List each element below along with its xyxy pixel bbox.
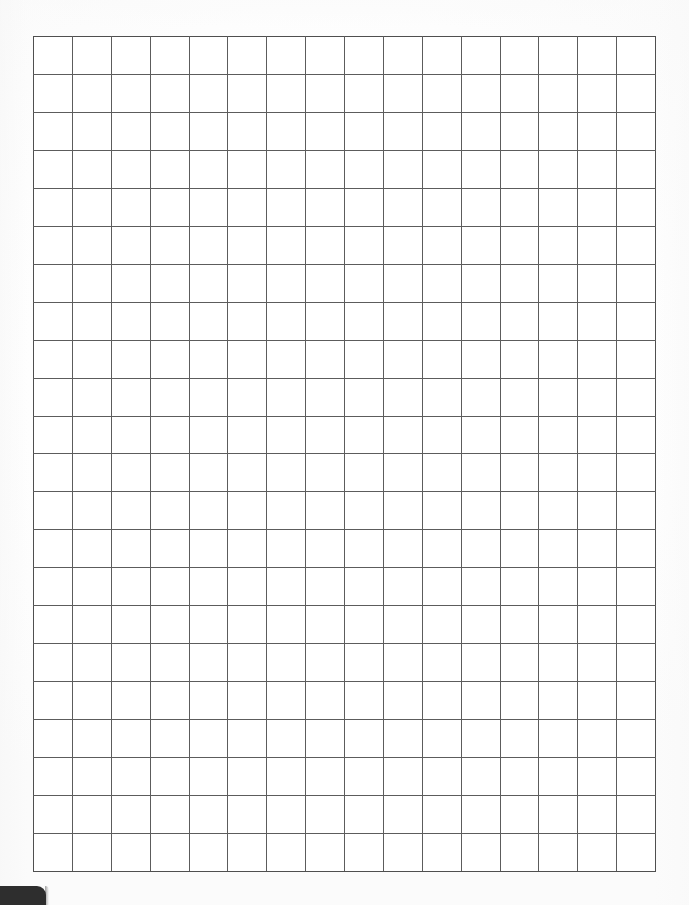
grid-cell[interactable] [539,796,578,834]
grid-cell[interactable] [383,37,422,75]
grid-cell[interactable] [267,834,306,872]
grid-cell[interactable] [461,606,500,644]
grid-cell[interactable] [539,644,578,682]
grid-cell[interactable] [189,644,228,682]
grid-cell[interactable] [228,74,267,112]
grid-cell[interactable] [345,302,384,340]
grid-cell[interactable] [578,150,617,188]
grid-cell[interactable] [383,264,422,302]
grid-cell[interactable] [150,530,189,568]
grid-cell[interactable] [228,834,267,872]
grid-cell[interactable] [422,758,461,796]
grid-cell[interactable] [500,226,539,264]
grid-cell[interactable] [578,644,617,682]
grid-cell[interactable] [111,302,150,340]
grid-cell[interactable] [539,302,578,340]
grid-cell[interactable] [461,378,500,416]
grid-cell[interactable] [267,340,306,378]
grid-cell[interactable] [267,758,306,796]
grid-cell[interactable] [500,74,539,112]
grid-cell[interactable] [461,188,500,226]
grid-cell[interactable] [267,264,306,302]
grid-cell[interactable] [72,226,111,264]
grid-cell[interactable] [617,796,656,834]
grid-cell[interactable] [111,720,150,758]
grid-cell[interactable] [617,682,656,720]
grid-cell[interactable] [539,150,578,188]
grid-cell[interactable] [383,758,422,796]
grid-cell[interactable] [383,378,422,416]
grid-cell[interactable] [189,150,228,188]
grid-cell[interactable] [189,530,228,568]
grid-cell[interactable] [267,188,306,226]
grid-cell[interactable] [111,530,150,568]
grid-cell[interactable] [150,416,189,454]
grid-cell[interactable] [189,834,228,872]
grid-cell[interactable] [228,796,267,834]
grid-cell[interactable] [461,226,500,264]
grid-cell[interactable] [306,416,345,454]
grid-cell[interactable] [267,302,306,340]
grid-cell[interactable] [500,302,539,340]
grid-cell[interactable] [72,264,111,302]
grid-cell[interactable] [383,796,422,834]
grid-cell[interactable] [306,37,345,75]
grid-cell[interactable] [539,606,578,644]
grid-cell[interactable] [111,112,150,150]
grid-cell[interactable] [383,226,422,264]
grid-cell[interactable] [422,454,461,492]
grid-cell[interactable] [267,492,306,530]
grid-cell[interactable] [461,302,500,340]
grid-cell[interactable] [228,758,267,796]
grid-cell[interactable] [539,74,578,112]
grid-cell[interactable] [111,378,150,416]
grid-cell[interactable] [267,226,306,264]
grid-cell[interactable] [422,492,461,530]
grid-cell[interactable] [228,188,267,226]
grid-cell[interactable] [111,492,150,530]
grid-cell[interactable] [306,112,345,150]
grid-cell[interactable] [189,454,228,492]
grid-cell[interactable] [461,150,500,188]
grid-cell[interactable] [34,378,73,416]
grid-cell[interactable] [267,530,306,568]
grid-cell[interactable] [617,112,656,150]
grid-cell[interactable] [500,188,539,226]
grid-cell[interactable] [267,74,306,112]
grid-cell[interactable] [345,530,384,568]
grid-cell[interactable] [34,568,73,606]
grid-cell[interactable] [150,74,189,112]
grid-cell[interactable] [306,264,345,302]
grid-cell[interactable] [189,568,228,606]
grid-cell[interactable] [578,37,617,75]
grid-cell[interactable] [383,302,422,340]
grid-cell[interactable] [578,796,617,834]
grid-cell[interactable] [500,682,539,720]
grid-cell[interactable] [617,264,656,302]
grid-cell[interactable] [306,378,345,416]
grid-cell[interactable] [461,682,500,720]
grid-cell[interactable] [189,112,228,150]
grid-cell[interactable] [189,188,228,226]
grid-cell[interactable] [617,188,656,226]
grid-cell[interactable] [383,150,422,188]
grid-cell[interactable] [189,264,228,302]
grid-cell[interactable] [539,530,578,568]
grid-cell[interactable] [34,264,73,302]
grid-cell[interactable] [306,682,345,720]
grid-cell[interactable] [34,226,73,264]
grid-cell[interactable] [189,492,228,530]
grid-cell[interactable] [150,796,189,834]
grid-cell[interactable] [422,378,461,416]
grid-cell[interactable] [578,834,617,872]
grid-cell[interactable] [34,37,73,75]
grid-cell[interactable] [422,568,461,606]
grid-cell[interactable] [578,112,617,150]
grid-cell[interactable] [189,606,228,644]
grid-cell[interactable] [34,606,73,644]
grid-cell[interactable] [72,682,111,720]
grid-cell[interactable] [306,834,345,872]
grid-cell[interactable] [306,720,345,758]
grid-cell[interactable] [345,644,384,682]
grid-cell[interactable] [345,378,384,416]
